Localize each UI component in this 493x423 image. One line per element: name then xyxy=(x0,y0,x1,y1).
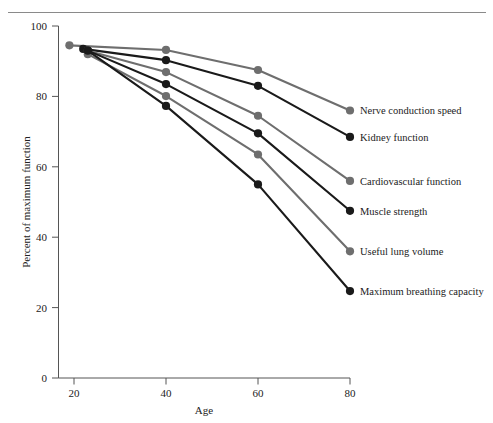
legend-item-label: Cardiovascular function xyxy=(360,176,462,187)
data-point-marker xyxy=(346,247,354,255)
data-point-marker xyxy=(346,207,354,215)
y-axis xyxy=(52,26,59,378)
data-point-marker xyxy=(65,41,73,49)
chart-series xyxy=(84,47,354,296)
legend-item-label: Nerve conduction speed xyxy=(360,105,462,116)
data-point-marker xyxy=(254,150,262,158)
data-point-marker xyxy=(84,47,92,55)
data-point-marker xyxy=(162,56,170,64)
x-tick-label: 20 xyxy=(69,387,81,399)
data-point-marker xyxy=(162,102,170,110)
chart-legend: Nerve conduction speedKidney functionCar… xyxy=(360,105,484,297)
data-point-marker xyxy=(254,180,262,188)
x-tick-labels: 20 40 60 80 xyxy=(69,387,357,399)
legend-item-label: Maximum breathing capacity xyxy=(360,286,484,297)
chart-figure: 100 80 60 40 20 0 20 40 60 80 Age Percen… xyxy=(0,0,493,423)
data-point-marker xyxy=(254,129,262,137)
data-point-marker xyxy=(254,66,262,74)
data-point-marker xyxy=(254,112,262,120)
data-point-marker xyxy=(346,177,354,185)
series-layer xyxy=(65,41,354,295)
data-point-marker xyxy=(346,287,354,295)
x-axis-title: Age xyxy=(195,404,213,416)
y-tick-label: 60 xyxy=(36,161,48,173)
x-tick-label: 40 xyxy=(161,387,173,399)
y-axis-ticks xyxy=(52,26,59,378)
x-tick-label: 60 xyxy=(253,387,265,399)
y-tick-label: 0 xyxy=(42,372,48,384)
data-point-marker xyxy=(162,46,170,54)
chart-series xyxy=(84,50,354,255)
legend-item-label: Muscle strength xyxy=(360,206,428,217)
y-tick-label: 20 xyxy=(36,302,48,314)
y-tick-label: 80 xyxy=(36,90,48,102)
line-chart-plot: 100 80 60 40 20 0 20 40 60 80 Age Percen… xyxy=(0,0,493,423)
y-tick-labels: 100 80 60 40 20 0 xyxy=(31,20,48,384)
data-point-marker xyxy=(254,82,262,90)
y-axis-title: Percent of maximum function xyxy=(20,136,32,268)
data-point-marker xyxy=(346,106,354,114)
legend-item-label: Useful lung volume xyxy=(360,246,444,257)
data-point-marker xyxy=(162,68,170,76)
y-tick-label: 100 xyxy=(31,20,48,32)
series-line xyxy=(88,51,350,291)
x-tick-label: 80 xyxy=(345,387,357,399)
y-tick-label: 40 xyxy=(36,231,48,243)
legend-item-label: Kidney function xyxy=(360,132,429,143)
series-line xyxy=(69,45,350,110)
x-axis xyxy=(59,378,351,385)
data-point-marker xyxy=(162,92,170,100)
x-axis-ticks xyxy=(74,378,350,385)
data-point-marker xyxy=(162,80,170,88)
data-point-marker xyxy=(346,133,354,141)
